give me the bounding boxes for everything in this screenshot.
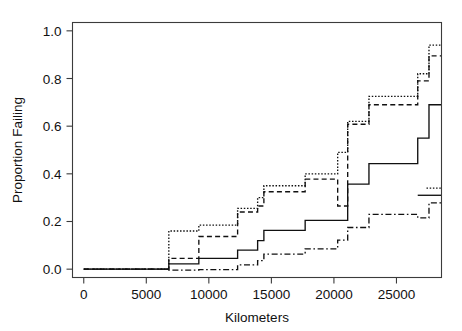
x-axis-title: Kilometers: [225, 310, 289, 325]
y-axis-title: Proportion Failing: [10, 97, 25, 203]
y-tick-label: 0.8: [43, 72, 62, 87]
y-tick-label: 0.4: [43, 167, 62, 182]
x-tick-label: 15000: [253, 287, 291, 302]
x-tick-label: 10000: [190, 287, 228, 302]
x-tick-label: 20000: [315, 287, 353, 302]
proportion-failing-step-chart: 0500010000150002000025000 0.00.20.40.60.…: [0, 0, 462, 331]
chart-figure: 0500010000150002000025000 0.00.20.40.60.…: [0, 0, 462, 331]
chart-background: [0, 0, 462, 331]
x-tick-label: 5000: [131, 287, 161, 302]
y-tick-label: 1.0: [43, 24, 62, 39]
x-tick-label: 0: [80, 287, 88, 302]
y-tick-label: 0.0: [43, 262, 62, 277]
x-tick-label: 25000: [378, 287, 416, 302]
y-tick-label: 0.2: [43, 214, 62, 229]
y-tick-label: 0.6: [43, 119, 62, 134]
